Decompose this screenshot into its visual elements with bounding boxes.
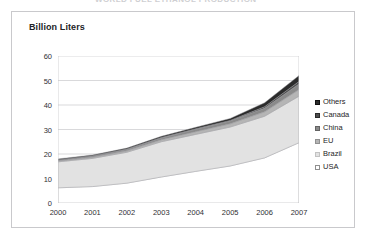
y-axis-tick-label: 50 [44,76,52,85]
clipped-chart-title-text: WORLD FUEL ETHANOL PRODUCTION [95,0,257,4]
legend-swatch-icon [315,152,320,157]
legend-item-eu[interactable]: EU [315,135,373,147]
x-axis: 20002001200220032004200520062007 [58,208,299,222]
legend-item-others[interactable]: Others [315,96,373,108]
x-axis-tick-label: 2000 [50,208,67,217]
x-axis-tick-label: 2001 [84,208,101,217]
legend-item-usa[interactable]: USA [315,161,373,173]
legend-item-label: EU [323,137,333,145]
y-axis-tick-label: 20 [44,150,52,159]
legend-item-label: Canada [323,111,349,119]
stacked-area-chart [58,56,299,203]
y-axis-tick-label: 40 [44,101,52,110]
legend-swatch-icon [315,139,320,144]
legend-swatch-icon [315,165,320,170]
y-axis: 0102030405060 [23,56,56,203]
y-axis-tick-label: 60 [44,52,52,61]
y-axis-tick-label: 0 [48,199,52,208]
x-axis-tick-label: 2003 [153,208,170,217]
y-axis-tick-label: 30 [44,125,52,134]
legend-item-label: China [323,124,343,132]
x-axis-tick-label: 2004 [187,208,204,217]
legend-item-label: Others [323,98,346,106]
x-axis-tick-label: 2006 [256,208,273,217]
chart-legend: OthersCanadaChinaEUBrazilUSA [315,96,373,174]
legend-swatch-icon [315,126,320,131]
legend-swatch-icon [315,100,320,105]
legend-item-canada[interactable]: Canada [315,109,373,121]
x-axis-tick-label: 2002 [119,208,136,217]
legend-item-brazil[interactable]: Brazil [315,148,373,160]
legend-swatch-icon [315,113,320,118]
legend-item-label: USA [323,163,338,171]
chart-frame: Billion Liters 0102030405060 20002001200… [11,11,355,228]
plot-area [58,56,299,203]
y-axis-title: Billion Liters [29,22,85,32]
clipped-chart-title: WORLD FUEL ETHANOL PRODUCTION [0,0,374,8]
x-axis-tick-label: 2007 [291,208,308,217]
legend-item-china[interactable]: China [315,122,373,134]
y-axis-tick-label: 10 [44,174,52,183]
legend-item-label: Brazil [323,150,342,158]
x-axis-tick-label: 2005 [222,208,239,217]
